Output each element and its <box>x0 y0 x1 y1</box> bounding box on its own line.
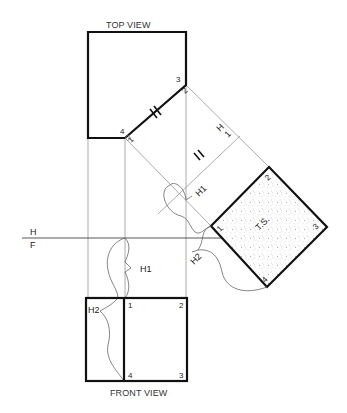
top-view-outline <box>88 32 186 138</box>
front-h1-label: H1 <box>140 264 152 274</box>
front-point-4: 4 <box>128 371 133 380</box>
true-shape-square <box>211 167 327 287</box>
top-point-4: 4 <box>120 127 125 136</box>
fold-line-h1-labels: H 1 <box>214 122 233 140</box>
top-view-title: TOP VIEW <box>106 20 151 30</box>
front-point-1: 1 <box>128 301 133 310</box>
top-point-1: 1 <box>126 135 136 145</box>
aux-h2-label: H2 <box>188 251 203 266</box>
front-point-3: 3 <box>179 371 184 380</box>
projection-lines <box>88 85 269 298</box>
front-view-title: FRONT VIEW <box>110 388 168 398</box>
top-point-3: 3 <box>176 75 181 84</box>
fold-label-h1-1: 1 <box>222 129 233 140</box>
fold-label-f: F <box>30 240 36 250</box>
fold-label-h: H <box>30 227 37 237</box>
parallel-marks-h1 <box>194 150 204 160</box>
front-distance-markers: H1 <box>100 238 152 381</box>
front-h2-label: H2 <box>88 305 100 315</box>
front-view: H2 1 2 3 4 FRONT VIEW <box>86 298 187 398</box>
top-view: TOP VIEW 4 1 3 2 <box>88 20 190 144</box>
orthographic-projection-diagram: H F H 1 TOP VIEW 4 1 3 2 T.S. 1 2 3 4 H <box>0 0 347 413</box>
auxiliary-view-true-shape: T.S. 1 2 3 4 <box>211 167 327 287</box>
aux-h1-label: H1 <box>193 183 208 198</box>
front-point-2: 2 <box>179 301 184 310</box>
